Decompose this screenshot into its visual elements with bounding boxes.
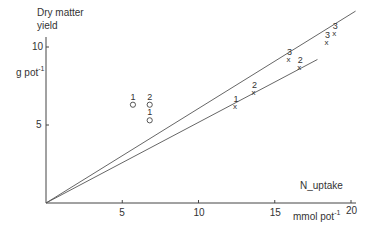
x-unit-text: mmol pot <box>293 211 334 222</box>
point-label: 2 <box>298 55 303 65</box>
circle-marker <box>147 118 152 123</box>
x-tick-label: 15 <box>270 208 281 218</box>
chart-canvas: 121x1x2x3x2x3x3 <box>0 0 367 231</box>
point-label: 3 <box>325 30 330 40</box>
x-tick-label: 10 <box>194 208 205 218</box>
y-axis-title-line1: Dry matter <box>37 8 84 18</box>
circle-marker <box>130 102 135 107</box>
lower-regression-line <box>46 59 317 203</box>
x-tick-label: 20 <box>346 206 357 216</box>
x-unit-superscript: -1 <box>334 209 340 216</box>
x-tick-label: 5 <box>119 208 125 218</box>
upper-regression-line <box>46 11 356 203</box>
point-label: 1 <box>234 94 239 104</box>
point-label: 1 <box>130 92 135 102</box>
y-axis-title-line2: yield <box>37 21 58 31</box>
point-label: 3 <box>287 47 292 57</box>
point-label: 2 <box>147 92 152 102</box>
point-label: 1 <box>147 107 152 117</box>
y-unit-text: g pot <box>16 67 38 78</box>
y-tick-label: 10 <box>32 42 43 52</box>
x-axis-unit: mmol pot-1 <box>293 212 340 222</box>
y-unit-superscript: -1 <box>38 65 44 72</box>
x-axis-title: N_uptake <box>300 181 343 191</box>
y-axis-unit: g pot-1 <box>16 68 44 78</box>
point-label: 2 <box>252 80 257 90</box>
y-tick-label: 5 <box>36 120 42 130</box>
point-label: 3 <box>333 21 338 31</box>
